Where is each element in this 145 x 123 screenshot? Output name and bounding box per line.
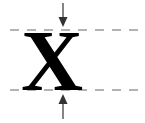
sample-glyph: X	[17, 14, 87, 109]
x-height-diagram: X	[0, 0, 145, 123]
